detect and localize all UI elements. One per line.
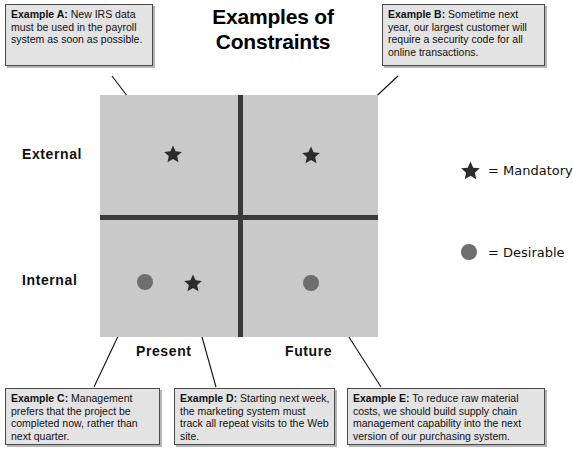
legend-label-mandatory: = Mandatory xyxy=(488,163,573,178)
callout-example-a-label: Example A: xyxy=(11,8,68,20)
callout-example-e-label: Example E: xyxy=(353,392,410,404)
star-icon xyxy=(461,161,480,180)
axis-label-present: Present xyxy=(136,343,192,359)
legend-item-mandatory xyxy=(461,161,480,180)
axis-label-external: External xyxy=(22,146,82,162)
axis-label-future: Future xyxy=(285,343,332,359)
marker-b-star[interactable] xyxy=(302,146,320,164)
page-title: Examples of Constraints xyxy=(178,4,368,54)
axis-label-internal: Internal xyxy=(22,272,77,288)
callout-example-e[interactable]: Example E: To reduce raw material costs,… xyxy=(347,388,545,445)
callout-example-b-label: Example B: xyxy=(388,8,445,20)
quadrant-horizontal-axis xyxy=(100,215,378,220)
marker-d-star[interactable] xyxy=(184,274,202,292)
callout-example-a[interactable]: Example A: New IRS data must be used in … xyxy=(5,4,153,66)
callout-example-d[interactable]: Example D: Starting next week, the marke… xyxy=(174,388,335,445)
marker-a-star[interactable] xyxy=(164,145,182,163)
page-title-line-1: Examples of xyxy=(178,4,368,29)
page-title-line-2: Constraints xyxy=(178,29,368,54)
circle-icon xyxy=(461,244,477,260)
callout-example-b[interactable]: Example B: Sometime next year, our large… xyxy=(382,4,545,66)
marker-e-circle[interactable] xyxy=(303,275,319,291)
callout-example-d-label: Example D: xyxy=(180,392,237,404)
callout-example-c[interactable]: Example C: Management prefers that the p… xyxy=(5,388,160,445)
callout-example-c-label: Example C: xyxy=(11,392,68,404)
legend-label-desirable: = Desirable xyxy=(488,245,565,260)
marker-c-circle[interactable] xyxy=(137,274,153,290)
